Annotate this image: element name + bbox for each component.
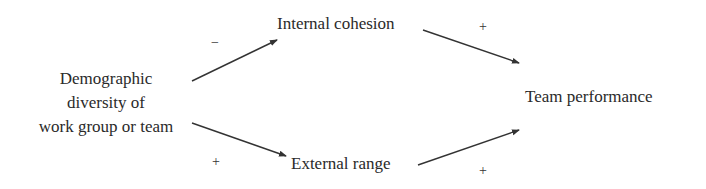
node-demographic-diversity: Demographic diversity of work group or t… [22,67,190,139]
sign-diversity-range: + [212,155,220,169]
sign-cohesion-performance: + [479,20,487,34]
node-line: work group or team [22,115,190,139]
node-internal-cohesion: Internal cohesion [277,12,395,36]
arrow-diversity-to-range [192,123,286,156]
arrow-diversity-to-cohesion [192,40,277,81]
node-team-performance: Team performance [525,85,653,109]
arrow-cohesion-to-performance [423,30,519,63]
node-external-range: External range [291,152,391,176]
arrow-range-to-performance [418,130,519,165]
node-line: diversity of [22,91,190,115]
sign-range-performance: + [479,164,487,178]
sign-diversity-cohesion: − [211,36,219,50]
node-line: Demographic [22,67,190,91]
